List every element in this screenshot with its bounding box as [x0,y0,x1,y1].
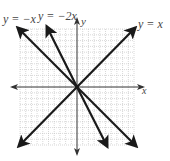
line-y-eq-neg-2x-upper [47,27,77,87]
label-y-eq-neg-2x: y = −2x [38,10,77,22]
label-y-eq-neg-x: y = −x [3,13,36,25]
line-y-eq-x-upper [77,28,135,87]
label-y-axis: y [81,16,86,27]
label-y-eq-x: y = x [138,18,163,30]
line-y-eq-neg-x-upper [18,28,77,87]
origin-point [75,85,79,89]
line-y-eq-x-lower [19,87,77,146]
line-y-eq-neg-x-lower [77,87,136,146]
line-y-eq-neg-2x-lower [77,87,107,146]
label-x-axis: x [142,86,146,96]
